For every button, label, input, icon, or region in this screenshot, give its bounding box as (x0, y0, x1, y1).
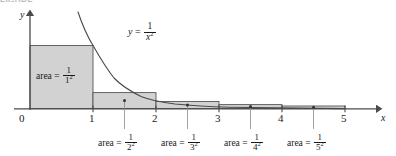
area-label-4-lead: area (224, 138, 240, 148)
area-label-2-equals: = (116, 138, 121, 148)
area-label-5-denominator: 52 (314, 142, 326, 152)
curve-denominator-exponent: 2 (150, 30, 153, 37)
area-label-4-fraction: 1 42 (251, 133, 263, 153)
area-label-5-fraction: 1 52 (314, 133, 326, 153)
area-label-5-denominator-exponent: 2 (320, 140, 323, 147)
leader-dot-5 (312, 106, 315, 109)
area-label-1-denominator-exponent: 2 (69, 73, 72, 80)
x-axis-label: x (381, 113, 385, 123)
x-tick-label-1: 1 (89, 113, 95, 124)
x-tick-label-5: 5 (341, 113, 347, 124)
area-label-3-denominator-exponent: 2 (194, 140, 197, 147)
area-label-5-lead: area (287, 138, 303, 148)
rectangles-group (30, 46, 345, 109)
area-label-4-denominator-exponent: 2 (257, 140, 260, 147)
area-label-2-denominator: 22 (125, 142, 137, 152)
area-label-4-denominator: 42 (251, 142, 263, 152)
area-label-2-denominator-exponent: 2 (131, 140, 134, 147)
area-label-2-fraction: 1 22 (125, 133, 137, 153)
curve-equation-label: y = 1 x2 (128, 22, 157, 43)
x-tick-label-2: 2 (152, 113, 158, 124)
area-label-1-equals: = (54, 71, 59, 81)
curve-label-lhs: y (128, 26, 132, 37)
area-label-1-denominator: 12 (63, 75, 75, 85)
area-label-3: area = 1 32 (161, 133, 201, 153)
leader-dot-3 (186, 103, 189, 106)
area-label-1-fraction: 1 12 (63, 66, 75, 86)
origin-tick-label: 0 (19, 113, 25, 124)
area-label-1: area = 1 12 (36, 66, 76, 86)
area-label-3-lead: area (161, 138, 177, 148)
area-label-5-equals: = (305, 138, 310, 148)
area-label-3-fraction: 1 32 (188, 133, 200, 153)
area-label-5: area = 1 52 (287, 133, 327, 153)
area-label-3-equals: = (179, 138, 184, 148)
x-tick-label-3: 3 (215, 113, 221, 124)
curve-label-equals: = (135, 26, 141, 37)
x-tick-label-4: 4 (278, 113, 284, 124)
y-axis-label: y (20, 10, 24, 20)
curve-label-denominator: x2 (144, 32, 155, 43)
area-label-1-lead: area (36, 71, 52, 81)
area-label-2: area = 1 22 (98, 133, 138, 153)
leader-dot-4 (249, 105, 252, 108)
area-label-3-denominator: 32 (188, 142, 200, 152)
area-label-4: area = 1 42 (224, 133, 264, 153)
area-label-4-equals: = (242, 138, 247, 148)
leader-dot-2 (123, 99, 126, 102)
area-label-2-lead: area (98, 138, 114, 148)
curve-label-fraction: 1 x2 (144, 22, 155, 43)
figure-container: FIGURE (0, 0, 396, 156)
